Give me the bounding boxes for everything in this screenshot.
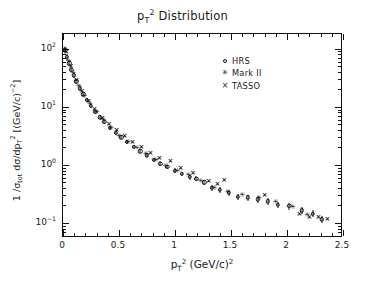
tick-mark <box>220 233 221 236</box>
data-point-tasso: × <box>130 138 136 145</box>
tick-mark <box>343 230 344 236</box>
tick-mark <box>298 34 299 37</box>
data-point-tasso: × <box>262 192 268 199</box>
data-point-tasso: × <box>138 143 144 150</box>
chart-title: pT2 Distribution <box>0 9 365 23</box>
x-tick-label: 2.5 <box>335 240 349 250</box>
tick-mark <box>242 34 243 37</box>
tick-mark <box>321 34 322 37</box>
tick-mark <box>343 34 344 40</box>
data-point-tasso: × <box>79 87 85 94</box>
tick-mark <box>164 34 165 37</box>
tick-mark <box>63 229 66 230</box>
data-point-tasso: × <box>306 214 312 221</box>
tick-mark <box>63 124 66 125</box>
x-tick-label: 0 <box>59 240 65 250</box>
tick-mark <box>338 232 341 233</box>
data-point-tasso: × <box>190 170 196 177</box>
y-axis-title: 1 /σtot dσ/dpT2 [(GeV/c)−2] <box>11 41 22 241</box>
tick-mark <box>287 34 288 40</box>
tick-mark <box>63 107 69 108</box>
tick-mark <box>164 233 165 236</box>
tick-mark <box>338 236 341 237</box>
tick-mark <box>338 195 341 196</box>
tick-mark <box>63 205 66 206</box>
tick-mark <box>332 34 333 37</box>
tick-mark <box>332 233 333 236</box>
tick-mark <box>97 34 98 37</box>
data-point-tasso: × <box>147 149 153 156</box>
tick-mark <box>338 72 341 73</box>
data-point-tasso: × <box>91 105 97 112</box>
tick-mark <box>63 110 66 111</box>
tick-mark <box>186 233 187 236</box>
tick-mark <box>335 165 341 166</box>
data-point-hrs <box>218 188 222 192</box>
tick-mark <box>338 58 341 59</box>
tick-mark <box>338 112 341 113</box>
tick-mark <box>309 233 310 236</box>
tick-mark <box>63 168 66 169</box>
tick-mark <box>141 34 142 37</box>
data-point-mark-ii: ✳ <box>290 204 296 211</box>
tick-mark <box>276 233 277 236</box>
data-point-tasso: × <box>156 155 162 162</box>
tick-mark <box>220 34 221 37</box>
legend-marker-icon <box>218 55 232 67</box>
data-point-tasso: × <box>168 157 174 164</box>
tick-mark <box>63 226 66 227</box>
tick-mark <box>197 34 198 37</box>
tick-mark <box>63 182 66 183</box>
tick-mark <box>338 229 341 230</box>
tick-mark <box>338 110 341 111</box>
tick-mark <box>63 232 66 233</box>
data-point-tasso: × <box>99 114 105 121</box>
tick-mark <box>338 171 341 172</box>
data-point-hrs <box>266 199 270 203</box>
tick-mark <box>74 233 75 236</box>
tick-mark <box>153 34 154 37</box>
tick-mark <box>338 137 341 138</box>
tick-mark <box>338 168 341 169</box>
tick-mark <box>265 233 266 236</box>
tick-mark <box>209 34 210 37</box>
tick-mark <box>338 130 341 131</box>
tick-mark <box>265 34 266 37</box>
tick-mark <box>186 34 187 37</box>
x-tick-label: 1 <box>171 240 177 250</box>
legend-marker-icon: ✳ <box>218 67 232 79</box>
tick-mark <box>338 182 341 183</box>
data-point-tasso: × <box>324 216 330 223</box>
data-point-tasso: × <box>206 178 212 185</box>
tick-mark <box>63 112 66 113</box>
tick-mark <box>309 34 310 37</box>
tick-mark <box>287 230 288 236</box>
tick-mark <box>63 89 66 90</box>
tick-mark <box>338 178 341 179</box>
tick-mark <box>63 72 66 73</box>
tick-mark <box>231 230 232 236</box>
data-point-mark-ii: ✳ <box>239 192 245 199</box>
tick-mark <box>63 116 66 117</box>
legend: HRS✳Mark II×TASSO <box>218 55 262 92</box>
tick-mark <box>335 107 341 108</box>
tick-mark <box>338 147 341 148</box>
tick-mark <box>130 233 131 236</box>
data-point-tasso: × <box>122 133 128 140</box>
tick-mark <box>338 226 341 227</box>
tick-mark <box>63 66 66 67</box>
plot-area: ✳✳✳✳✳✳✳✳✳✳✳✳✳✳✳✳✳✳✳✳✳✳✳✳✳×××××××××××××××… <box>62 33 342 237</box>
tick-mark <box>141 233 142 236</box>
tick-mark <box>63 178 66 179</box>
tick-mark <box>338 66 341 67</box>
tick-mark <box>97 233 98 236</box>
tick-mark <box>335 49 341 50</box>
legend-marker-icon: × <box>218 80 232 92</box>
data-point-mark-ii: ✳ <box>198 178 204 185</box>
data-point-tasso: × <box>215 181 221 188</box>
tick-mark <box>338 79 341 80</box>
tick-mark <box>63 171 66 172</box>
data-point-tasso: × <box>106 121 112 128</box>
tick-mark <box>298 233 299 236</box>
tick-mark <box>63 195 66 196</box>
